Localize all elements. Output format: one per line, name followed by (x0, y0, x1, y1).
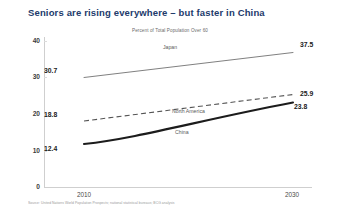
value-label-north-america-2030: 25.9 (300, 90, 313, 97)
value-label-north-america-2010: 18.8 (44, 111, 57, 118)
series-label-japan: Japan (163, 44, 177, 50)
x-tick-label-2010: 2010 (66, 191, 102, 198)
value-label-china-2010: 12.4 (44, 145, 57, 152)
series-label-north-america: North America (172, 108, 205, 114)
value-label-japan-2010: 30.7 (44, 67, 57, 74)
value-label-japan-2030: 37.5 (300, 41, 313, 48)
series-label-china: China (175, 129, 189, 135)
series-line-japan (84, 53, 293, 78)
chart-slide: Seniors are rising everywhere – but fast… (0, 0, 342, 221)
source-note: Source: United Nations World Population … (28, 201, 175, 205)
value-label-china-2030: 23.8 (294, 103, 307, 110)
x-tick-label-2030: 2030 (274, 191, 310, 198)
